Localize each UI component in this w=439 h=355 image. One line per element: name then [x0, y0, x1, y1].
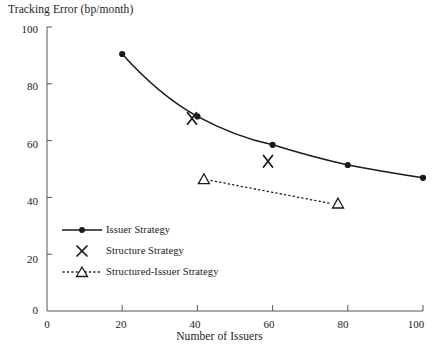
- series-issuer-strategy: [119, 51, 426, 181]
- x-marker-icon: [60, 243, 106, 259]
- legend-item-structured-issuer-strategy: Structured-Issuer Strategy: [60, 261, 219, 282]
- dotted-triangle-icon: [60, 264, 106, 280]
- plot-area: [0, 0, 439, 355]
- legend-label-structured-issuer-strategy: Structured-Issuer Strategy: [106, 266, 219, 277]
- x-axis-ticks: [122, 305, 423, 311]
- x-axis-title: Number of Issuers: [0, 330, 439, 342]
- series-structured-issuer-strategy: [198, 174, 343, 208]
- legend-item-issuer-strategy: Issuer Strategy: [60, 219, 219, 240]
- line-circle-icon: [60, 222, 106, 238]
- legend-label-structure-strategy: Structure Strategy: [106, 245, 184, 256]
- legend-label-issuer-strategy: Issuer Strategy: [106, 224, 170, 235]
- legend-item-structure-strategy: Structure Strategy: [60, 240, 219, 261]
- chart-container: Tracking Error (bp/month) 100 80 60 40 2…: [0, 0, 439, 355]
- y-axis-ticks: [47, 27, 52, 254]
- series-structure-strategy: [188, 113, 273, 168]
- chart-legend: Issuer Strategy Structure Strategy: [60, 219, 219, 282]
